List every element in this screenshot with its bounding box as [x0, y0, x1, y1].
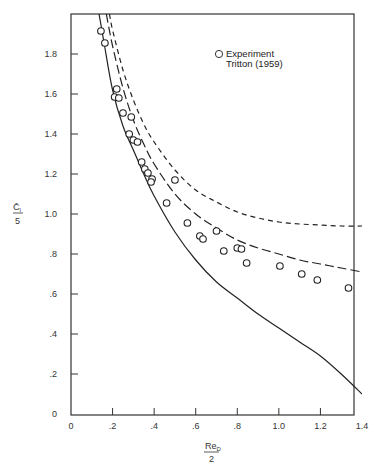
data-point-circle-icon [148, 179, 155, 186]
x-label-symbol: Re [205, 441, 217, 451]
chart: 0.2.4.6.81.01.21.40.2.4.6.81.01.21.41.61… [0, 0, 376, 468]
data-point-circle-icon [134, 139, 141, 146]
x-tick-label: 1.0 [273, 421, 286, 431]
curves [99, 14, 362, 394]
x-label-denominator: 2 [209, 454, 214, 464]
x-tick-label: .2 [109, 421, 117, 431]
data-point-circle-icon [163, 200, 170, 207]
data-point-circle-icon [243, 260, 250, 267]
data-point-circle-icon [220, 248, 227, 255]
data-point-circle-icon [345, 285, 352, 292]
plot-border [71, 14, 354, 415]
x-tick-label: .4 [150, 421, 158, 431]
legend-line-2: Tritton (1959) [226, 58, 283, 69]
data-point-circle-icon [298, 271, 305, 278]
data-point-circle-icon [126, 131, 133, 138]
legend: Experiment Tritton (1959) [215, 48, 282, 69]
y-tick-label: .8 [49, 249, 57, 259]
y-tick-label: 1.0 [44, 209, 57, 219]
y-tick-label: 1.6 [44, 89, 57, 99]
data-point-circle-icon [102, 40, 109, 47]
x-tick-label: 0 [68, 421, 73, 431]
y-label-subscript: l [20, 207, 21, 213]
data-point-circle-icon [113, 86, 120, 93]
curve-short-dash [109, 14, 362, 226]
x-tick-label: 1.2 [314, 421, 327, 431]
y-tick-label: .4 [49, 329, 57, 339]
data-point-circle-icon [200, 236, 207, 243]
data-point-circle-icon [116, 95, 123, 102]
legend-marker-circle-icon [215, 50, 222, 57]
data-point-circle-icon [138, 159, 145, 166]
y-tick-label: 1.8 [44, 49, 57, 59]
y-label-numerator: C̄l [13, 202, 21, 213]
data-point-circle-icon [128, 114, 135, 121]
x-tick-label: .6 [192, 421, 200, 431]
data-point-circle-icon [172, 177, 179, 184]
data-point-circle-icon [120, 110, 127, 117]
x-label-subscript: D [217, 446, 222, 452]
x-label-numerator: ReD [205, 441, 222, 452]
data-point-circle-icon [314, 277, 321, 284]
data-point-circle-icon [238, 246, 245, 253]
x-tick-label: 1.4 [356, 421, 369, 431]
data-point-circle-icon [184, 220, 191, 227]
plot-frame [71, 14, 354, 415]
y-tick-label: 0 [52, 409, 57, 419]
data-point-circle-icon [277, 263, 284, 270]
curve-solid [99, 14, 362, 394]
data-points [98, 28, 352, 292]
y-tick-label: 1.4 [44, 129, 57, 139]
y-tick-label: .6 [49, 289, 57, 299]
y-tick-label: 1.2 [44, 169, 57, 179]
y-tick-label: .2 [49, 369, 57, 379]
y-label-denominator: 5 [15, 216, 20, 226]
x-tick-label: .8 [234, 421, 242, 431]
data-point-circle-icon [145, 170, 152, 177]
data-point-circle-icon [98, 28, 105, 35]
x-axis-label: ReD 2 [204, 441, 222, 464]
y-axis-label: C̄l 5 [13, 202, 23, 226]
data-point-circle-icon [213, 228, 220, 235]
